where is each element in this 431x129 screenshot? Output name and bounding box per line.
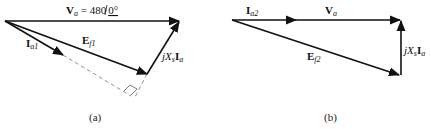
diagram-a: Va = 4800° Ia1 Ef1 jXsIa (a) xyxy=(5,4,183,124)
right-angle-marker xyxy=(124,85,137,95)
jxs-ia-label-a: jXsIa xyxy=(160,50,183,64)
ef1-label: Ef1 xyxy=(82,34,96,48)
ia2-label: Ia2 xyxy=(246,4,258,18)
perpendicular-dashed xyxy=(135,74,147,97)
diagram-b: Ia2 Va Ef2 jXsIa (b) xyxy=(232,4,425,124)
caption-a: (a) xyxy=(89,111,102,124)
va-label-b: Va xyxy=(325,4,337,18)
caption-b: (b) xyxy=(324,111,337,124)
phasor-diagrams: Va = 4800° Ia1 Ef1 jXsIa (a) Ia2 Va Ef2 … xyxy=(0,0,431,129)
ef2-vector xyxy=(232,20,399,75)
va-label-a: Va = 4800° xyxy=(66,4,118,18)
ia1-extension-dashed xyxy=(63,55,131,96)
jxs-ia-label-b: jXsIa xyxy=(402,44,425,58)
jxs-ia-vector-a xyxy=(147,22,179,74)
ef2-label: Ef2 xyxy=(307,50,321,64)
